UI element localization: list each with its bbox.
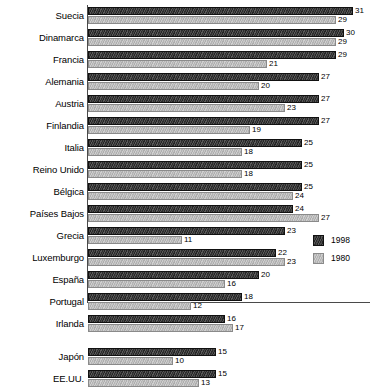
- bar-pair: 2518: [88, 137, 370, 159]
- value-label-1980: 27: [321, 214, 330, 222]
- value-label-1980: 11: [184, 236, 192, 244]
- bar-pair: 2427: [88, 203, 370, 225]
- legend-item-1980: 1980: [313, 249, 375, 267]
- bar-pair: 1617: [88, 313, 370, 335]
- bar-pair: 2720: [88, 71, 370, 93]
- bar-1998: [88, 29, 344, 37]
- value-label-1980: 23: [287, 258, 296, 266]
- value-label-1980: 17: [235, 324, 244, 332]
- category-label: Luxemburgo: [0, 247, 84, 269]
- bar-1998: [88, 117, 319, 125]
- value-label-1998: 27: [321, 95, 330, 103]
- category-label: Italia: [0, 137, 84, 159]
- value-label-1998: 18: [244, 293, 253, 301]
- bar-1980: [88, 192, 293, 200]
- value-label-1998: 25: [304, 161, 313, 169]
- category-label: Finlandia: [0, 115, 84, 137]
- category-label: Austria: [0, 93, 84, 115]
- bar-pair: 2518: [88, 159, 370, 181]
- value-label-1980: 10: [175, 357, 184, 365]
- value-label-1998: 31: [355, 7, 364, 15]
- bar-1998: [88, 51, 336, 59]
- bar-1998: [88, 227, 285, 235]
- dark-hatched-swatch: [313, 235, 324, 246]
- chart-legend: 1998 1980: [313, 231, 375, 267]
- bar-row: Francia2921: [0, 49, 385, 71]
- value-label-1998: 25: [304, 183, 313, 191]
- bar-1998: [88, 205, 293, 213]
- bar-1980: [88, 258, 285, 266]
- category-label: EE.UU.: [0, 368, 84, 390]
- bar-row: Irlanda1617: [0, 313, 385, 335]
- bar-1980: [88, 16, 336, 24]
- value-label-1980: 23: [287, 104, 296, 112]
- bar-1998: [88, 183, 302, 191]
- category-label: Irlanda: [0, 313, 84, 335]
- value-label-1998: 22: [278, 249, 287, 257]
- bar-row: Austria2723: [0, 93, 385, 115]
- legend-label-1998: 1998: [331, 235, 350, 246]
- bar-pair: 1812: [88, 291, 370, 313]
- category-label: Grecia: [0, 225, 84, 247]
- value-label-1998: 20: [261, 271, 270, 279]
- value-label-1998: 27: [321, 117, 330, 125]
- value-label-1998: 16: [227, 315, 236, 323]
- category-label: Dinamarca: [0, 27, 84, 49]
- bar-pair: 2016: [88, 269, 370, 291]
- bar-1980: [88, 170, 242, 178]
- bar-1998: [88, 293, 242, 301]
- bar-row: Bélgica2524: [0, 181, 385, 203]
- bar-row: Alemania2720: [0, 71, 385, 93]
- value-label-1980: 18: [244, 148, 253, 156]
- bar-1998: [88, 315, 225, 323]
- value-label-1980: 18: [244, 170, 253, 178]
- value-label-1980: 20: [261, 82, 270, 90]
- value-label-1980: 29: [338, 16, 347, 24]
- category-label: Bélgica: [0, 181, 84, 203]
- value-label-1998: 30: [346, 29, 355, 37]
- bar-pair: 3029: [88, 27, 370, 49]
- category-label: Francia: [0, 49, 84, 71]
- legend-label-1980: 1980: [331, 253, 350, 264]
- bar-1998: [88, 73, 319, 81]
- bar-1998: [88, 161, 302, 169]
- bar-1980: [88, 38, 336, 46]
- category-label: Japón: [0, 346, 84, 368]
- bar-1980: [88, 280, 225, 288]
- bar-1998: [88, 7, 353, 15]
- value-label-1998: 15: [218, 370, 227, 378]
- value-label-1980: 24: [295, 192, 304, 200]
- category-label: Suecia: [0, 5, 84, 27]
- value-label-1980: 12: [193, 302, 202, 310]
- bar-1998: [88, 95, 319, 103]
- legend-item-1998: 1998: [313, 231, 375, 249]
- bar-1998: [88, 271, 259, 279]
- bar-row: Reino Unido2518: [0, 159, 385, 181]
- bar-1980: [88, 302, 191, 310]
- category-label: Alemania: [0, 71, 84, 93]
- bar-1980: [88, 148, 242, 156]
- bar-row: EE.UU.1513: [0, 368, 385, 390]
- value-label-1980: 13: [201, 379, 210, 387]
- category-label: Portugal: [0, 291, 84, 313]
- value-label-1998: 15: [218, 348, 227, 356]
- bar-1980: [88, 324, 233, 332]
- bar-1998: [88, 348, 216, 356]
- bar-row: España2016: [0, 269, 385, 291]
- bar-row: Portugal1812: [0, 291, 385, 313]
- bar-row: Finlandia2719: [0, 115, 385, 137]
- bar-1980: [88, 214, 319, 222]
- bar-row: Dinamarca3029: [0, 27, 385, 49]
- value-label-1998: 27: [321, 73, 330, 81]
- bar-1980: [88, 379, 199, 387]
- bar-pair: 2723: [88, 93, 370, 115]
- category-label: España: [0, 269, 84, 291]
- bar-1980: [88, 104, 285, 112]
- group-separator: [0, 335, 385, 346]
- bar-1980: [88, 82, 259, 90]
- bar-row: Países Bajos2427: [0, 203, 385, 225]
- bar-pair: 1513: [88, 368, 370, 390]
- value-label-1998: 29: [338, 51, 347, 59]
- bar-row: Suecia3129: [0, 5, 385, 27]
